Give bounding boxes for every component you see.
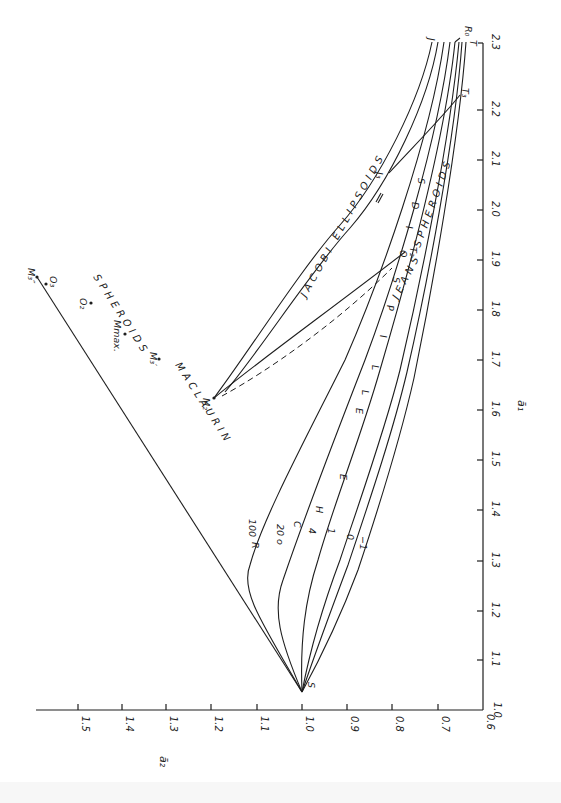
scan-margin — [0, 782, 561, 803]
label-T3: T₃ — [460, 88, 471, 98]
a2-tick-labels: 1.5 1.4 1.3 1.2 1.1 1.0 0.9 0.8 0.7 0.6 … — [80, 714, 496, 768]
a1-tick-labels: 1.0 1.1 1.2 1.3 1.4 1.5 1.6 1.7 1.8 1.9 … — [490, 34, 528, 718]
label-M3-prime: M₃′ — [148, 352, 159, 367]
a2-tick-1.1: 1.1 — [259, 716, 270, 732]
a2-tick-1.3: 1.3 — [168, 716, 179, 732]
jacobi-curve — [214, 42, 432, 398]
label-I2: I — [404, 226, 415, 229]
a2-tick-0.7: 0.7 — [440, 716, 451, 733]
label-o-small: o — [275, 539, 286, 545]
label-D: D — [410, 202, 421, 209]
axes — [36, 43, 483, 710]
label-20: 20 — [275, 524, 286, 536]
label-M3-double-prime: M₃″ — [26, 268, 37, 284]
a1-ticks — [477, 110, 483, 660]
label-R-small: R — [250, 542, 261, 549]
a2-ticks — [78, 704, 438, 710]
label-H: H — [314, 506, 325, 513]
label-O: O — [398, 250, 409, 258]
equilibrium-figures-diagram: 1.5 1.4 1.3 1.2 1.1 1.0 0.9 0.8 0.7 0.6 … — [0, 0, 561, 803]
a1-tick-1.8: 1.8 — [490, 301, 501, 317]
a1-tick-1.6: 1.6 — [490, 401, 501, 417]
a1-tick-1.0: 1.0 — [492, 702, 503, 718]
label-minus1: −1 — [358, 536, 369, 550]
a2-tick-0.9: 0.9 — [349, 716, 360, 732]
label-S3: S — [416, 178, 427, 184]
a1-tick-1.2: 1.2 — [490, 602, 501, 618]
curve-100 — [247, 42, 444, 692]
jacobi-inner-curve — [225, 42, 438, 392]
a2-tick-1.4: 1.4 — [124, 716, 135, 732]
j3-double-mark — [376, 193, 381, 202]
a1-tick-1.1: 1.1 — [490, 651, 501, 667]
r0-arrow — [455, 38, 460, 42]
a2-tick-1.5: 1.5 — [80, 716, 91, 732]
label-I: I — [378, 335, 389, 338]
label-C: C — [292, 521, 303, 528]
label-100: 100 — [247, 519, 258, 537]
label-maclaurin: MACLAURIN — [173, 360, 234, 446]
label-S: S — [306, 682, 317, 688]
label-O3: O₃ — [48, 276, 59, 287]
a1-tick-1.9: 1.9 — [490, 251, 501, 267]
maclaurin-line — [37, 277, 302, 692]
label-T: T — [468, 40, 479, 47]
a1-tick-2.3: 2.3 — [490, 34, 501, 50]
a1-tick-2.2: 2.2 — [490, 101, 501, 117]
a2-axis-title: ā₂ — [157, 756, 170, 768]
a2-tick-1.0: 1.0 — [304, 716, 315, 732]
label-R0: R₀ — [463, 26, 474, 37]
a2-tick-1.2: 1.2 — [213, 716, 224, 732]
label-4: 4 — [307, 528, 318, 534]
label-P: P — [385, 305, 396, 311]
label-L1: L — [360, 390, 371, 395]
a1-tick-2.1: 2.1 — [490, 151, 501, 167]
maclaurin-sequence — [35, 275, 302, 692]
ellipsoid-curves — [214, 42, 466, 692]
a2-tick-0.8: 0.8 — [394, 716, 405, 732]
a1-tick-1.3: 1.3 — [490, 552, 501, 568]
label-J: J — [426, 36, 437, 41]
a1-axis-title: ā₁ — [515, 400, 528, 411]
label-E2: E — [354, 408, 365, 414]
a1-tick-1.5: 1.5 — [490, 451, 501, 467]
label-E1: E — [338, 474, 349, 480]
label-O2: O₂ — [78, 298, 89, 309]
label-L2: L — [370, 365, 381, 370]
label-Mmax: Mmax. — [112, 320, 123, 352]
a1-tick-2.0: 2.0 — [490, 201, 501, 217]
label-jacobi-ellipsoids: JACOBI ELLIPSOIDS — [297, 151, 387, 301]
curve-minus1-jeans — [302, 42, 466, 692]
a1-tick-1.4: 1.4 — [490, 501, 501, 517]
label-1: 1 — [326, 528, 337, 534]
curve-20 — [278, 42, 450, 692]
label-0: 0 — [345, 534, 356, 540]
a1-tick-1.7: 1.7 — [490, 351, 501, 368]
curve-0 — [302, 42, 462, 692]
